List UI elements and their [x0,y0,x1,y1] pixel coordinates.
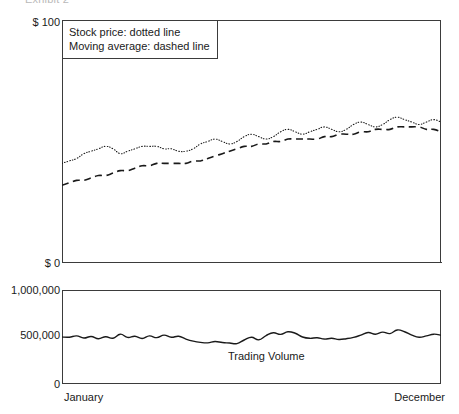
price-panel-baseline [62,262,442,263]
volume-axis-top-label: 1,000,000 [11,285,60,296]
x-axis-end-label: December [394,391,445,403]
volume-axis-mid-label: 500,000 [20,330,60,341]
legend-item-moving-average: Moving average: dashed line [69,39,210,53]
volume-axis-zero-label: 0 [54,379,60,390]
chart-legend: Stock price: dotted line Moving average:… [63,21,218,59]
volume-annotation-label: Trading Volume [228,350,305,362]
figure-caption: Exhibit 2 [25,0,69,5]
x-axis-start-label: January [64,391,103,403]
legend-item-stock-price: Stock price: dotted line [69,25,210,39]
volume-panel-frame [62,290,441,384]
price-axis-top-label: $ 100 [32,17,60,28]
price-axis-zero-label: $ 0 [45,258,60,269]
